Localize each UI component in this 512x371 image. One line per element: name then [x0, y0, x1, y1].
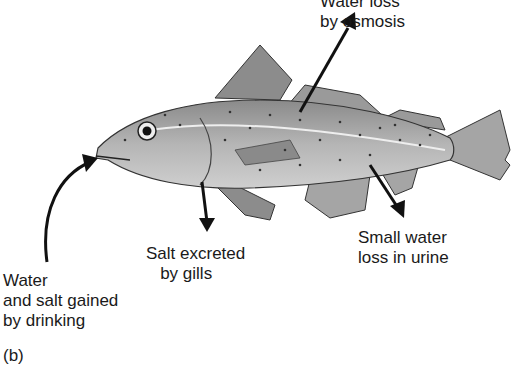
dorsal-fin-1 [215, 45, 292, 100]
label-drinking-gain: Water and salt gained by drinking [3, 271, 118, 331]
arrow-drinking [46, 154, 98, 262]
arrow-salt-excreted [199, 182, 215, 232]
label-salt-excreted-gills: Salt excreted by gills [146, 244, 245, 284]
label-urine-water-loss: Small water loss in urine [358, 228, 449, 268]
label-water-loss-osmosis: Water loss by osmosis [320, 0, 405, 32]
panel-label: (b) [3, 346, 24, 366]
